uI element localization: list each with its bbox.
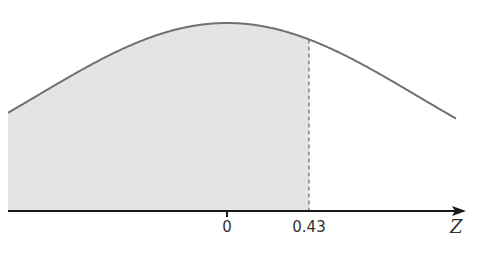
z-axis-label: Z bbox=[450, 216, 463, 237]
tick-label-zero: 0 bbox=[222, 218, 232, 236]
normal-distribution-chart bbox=[0, 0, 489, 265]
shaded-area bbox=[8, 23, 309, 210]
tick-label-z-value: 0.43 bbox=[292, 218, 325, 236]
